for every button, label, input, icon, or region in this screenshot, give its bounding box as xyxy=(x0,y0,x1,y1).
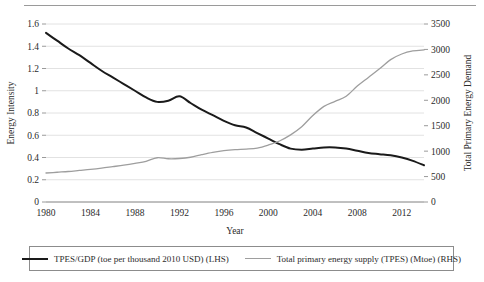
legend-item-tpes-total: Total primary energy supply (TPES) (Mtoe… xyxy=(245,254,461,264)
right-tick-label: 2000 xyxy=(431,96,450,106)
right-tick-label: 3000 xyxy=(431,45,450,55)
left-axis-title: Energy Intensity xyxy=(6,81,16,144)
x-tick-label: 1988 xyxy=(125,208,144,218)
left-tick-label: 0.4 xyxy=(27,153,39,163)
x-tick-label: 2004 xyxy=(303,208,322,218)
right-tick-label: 1000 xyxy=(431,147,450,157)
legend-swatch-gray-line-icon xyxy=(245,258,271,259)
line-chart-plot: 00.20.40.60.811.21.41.6 0500100015002000… xyxy=(0,0,484,282)
right-tick-label: 0 xyxy=(431,197,436,207)
legend-label-tpes-gdp: TPES/GDP (toe per thousand 2010 USD) (LH… xyxy=(54,254,229,264)
legend-label-tpes-total: Total primary energy supply (TPES) (Mtoe… xyxy=(277,254,461,264)
left-axis-ticks: 00.20.40.60.811.21.41.6 xyxy=(27,19,46,207)
left-tick-label: 1.6 xyxy=(27,19,39,29)
x-axis-ticks: 198019841988199219962000200420082012 xyxy=(37,208,412,218)
x-axis-title: Year xyxy=(226,226,244,236)
x-tick-label: 1992 xyxy=(170,208,189,218)
legend-swatch-dark-line-icon xyxy=(22,258,48,260)
x-tick-label: 1996 xyxy=(214,208,233,218)
left-tick-label: 1.4 xyxy=(27,42,39,52)
left-tick-label: 0.8 xyxy=(27,108,39,118)
x-tick-label: 2008 xyxy=(348,208,367,218)
chart-legend: TPES/GDP (toe per thousand 2010 USD) (LH… xyxy=(29,246,454,271)
right-tick-label: 500 xyxy=(431,172,446,182)
x-tick-label: 1980 xyxy=(37,208,56,218)
right-axis-ticks: 0500100015002000250030003500 xyxy=(424,19,450,207)
chart-figure: 00.20.40.60.811.21.41.6 0500100015002000… xyxy=(0,0,484,282)
right-tick-label: 1500 xyxy=(431,121,450,131)
gridlines-group xyxy=(46,24,424,180)
series-line-1 xyxy=(46,33,424,165)
data-series-group xyxy=(46,33,424,173)
left-tick-label: 0.6 xyxy=(27,131,39,141)
legend-item-tpes-gdp: TPES/GDP (toe per thousand 2010 USD) (LH… xyxy=(22,254,229,264)
right-axis-title: Total Primary Energy Demand xyxy=(463,54,473,171)
x-tick-label: 2000 xyxy=(259,208,278,218)
left-tick-label: 1.2 xyxy=(27,64,39,74)
right-tick-label: 2500 xyxy=(431,70,450,80)
left-tick-label: 0.2 xyxy=(27,175,39,185)
x-tick-label: 1984 xyxy=(81,208,100,218)
left-tick-label: 0 xyxy=(34,197,39,207)
x-tick-label: 2012 xyxy=(392,208,411,218)
left-tick-label: 1 xyxy=(34,86,39,96)
right-tick-label: 3500 xyxy=(431,19,450,29)
